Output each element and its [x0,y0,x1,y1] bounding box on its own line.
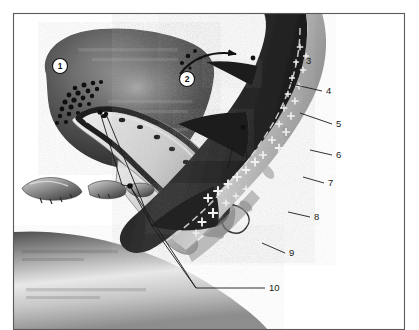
cell-granule-dot [58,114,62,118]
cell-granule-dot [67,112,72,117]
cell-granule-dot [82,83,87,88]
label-5: 5 [336,118,341,129]
cell-granule-dot [64,120,68,124]
cell-granule-dot [60,107,65,112]
callout-1-number: 1 [58,61,63,71]
callout-2-number: 2 [185,74,190,84]
cell-granule-dot [86,89,91,94]
callout-1: 1 [53,59,68,74]
migrating-particle [251,56,256,61]
cell-granule-dot [87,102,91,106]
anatomical-illustration: 345678910 12 [0,0,419,330]
cell-granule-dot [81,96,86,101]
cell-granule-dot [95,87,99,91]
label-7: 7 [328,177,333,188]
label-3: 3 [306,55,311,66]
label-8: 8 [314,211,319,222]
figure-container: 345678910 12 [0,0,419,330]
migrating-particle [193,49,197,53]
cell-granule-dot [71,97,76,102]
cell-granule-dot [69,105,74,110]
label-10: 10 [269,282,280,293]
bone-fragment-2 [88,181,126,199]
label-6: 6 [336,149,341,160]
cell-granule-dot [91,81,96,86]
migrating-particle [188,66,191,69]
cell-granule-dot [55,121,59,125]
label-4: 4 [326,85,331,96]
cell-granule-dot [75,90,80,95]
cell-granule-dot [99,80,103,84]
cell-granule-dot [63,100,68,105]
cell-granule-dot [78,103,83,108]
cell-granule-dot [67,93,72,98]
migrating-particle [186,54,191,59]
cell-granule-dot [90,94,94,98]
label-9: 9 [289,247,294,258]
callout-2: 2 [180,72,195,87]
migrating-particle [180,61,184,65]
cell-granule-dot [73,86,78,91]
migrating-particle [199,57,202,60]
